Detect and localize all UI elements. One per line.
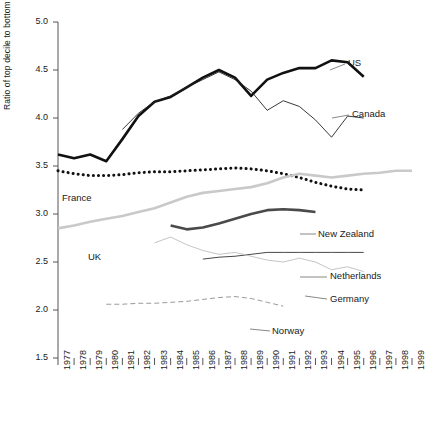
series-label-us: US: [348, 57, 361, 68]
x-tick-label: 1987: [223, 350, 233, 370]
x-tick-label: 1982: [142, 350, 152, 370]
label-leader-line: [330, 64, 345, 70]
series-label-norway: Norway: [272, 325, 304, 336]
x-tick-label: 1984: [175, 350, 185, 370]
y-tick-label: 5.0: [14, 16, 48, 26]
x-tick-label: 1979: [94, 350, 104, 370]
x-tick-label: 1981: [126, 350, 136, 370]
x-tick-label: 1989: [255, 350, 265, 370]
x-tick-label: 1977: [62, 350, 72, 370]
x-tick-label: 1994: [336, 350, 346, 370]
x-tick-label: 1997: [384, 350, 394, 370]
x-tick-label: 1992: [303, 350, 313, 370]
x-tick-label: 1996: [368, 350, 378, 370]
series-line-france: [58, 168, 364, 190]
series-label-france: France: [62, 192, 92, 203]
series-label-canada: Canada: [352, 108, 385, 119]
x-tick-label: 1999: [416, 350, 426, 370]
x-tick-label: 1978: [78, 350, 88, 370]
x-tick-label: 1991: [287, 350, 297, 370]
x-tick-label: 1988: [239, 350, 249, 370]
x-tick-label: 1995: [352, 350, 362, 370]
series-label-new-zealand: New Zealand: [318, 228, 374, 239]
label-leader-line: [250, 329, 270, 331]
series-label-netherlands: Netherlands: [330, 270, 381, 281]
x-tick-label: 1985: [191, 350, 201, 370]
series-line-canada: [122, 72, 363, 137]
x-tick-label: 1993: [319, 350, 329, 370]
series-line-new-zealand: [171, 209, 316, 229]
y-tick-label: 3.0: [14, 208, 48, 218]
y-tick-label: 4.5: [14, 64, 48, 74]
x-tick-label: 1998: [400, 350, 410, 370]
series-label-germany: Germany: [330, 293, 369, 304]
x-tick-label: 1980: [110, 350, 120, 370]
x-tick-label: 1983: [159, 350, 169, 370]
y-tick-label: 1.5: [14, 352, 48, 362]
y-tick-label: 3.5: [14, 160, 48, 170]
y-tick-label: 2.0: [14, 304, 48, 314]
x-tick-label: 1990: [271, 350, 281, 370]
series-line-germany: [155, 237, 364, 272]
y-tick-label: 2.5: [14, 256, 48, 266]
x-tick-label: 1986: [207, 350, 217, 370]
series-line-norway: [106, 297, 283, 307]
series-label-uk: UK: [88, 251, 101, 262]
y-tick-label: 4.0: [14, 112, 48, 122]
label-leader-line: [305, 296, 327, 299]
